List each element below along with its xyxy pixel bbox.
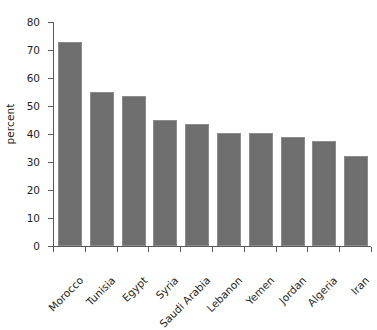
y-axis-title: percent	[0, 0, 20, 247]
x-tick	[148, 247, 149, 252]
y-tick-label: 60	[27, 72, 40, 84]
x-tick-label: Iran	[349, 274, 372, 297]
x-tick	[276, 247, 277, 252]
y-tick-label: 70	[27, 44, 40, 56]
x-tick-label: Jordan	[276, 274, 308, 306]
x-tick	[212, 247, 213, 252]
x-tick-label: Egypt	[119, 274, 149, 304]
x-tick-label: Tunisia	[83, 274, 117, 308]
y-tick-label: 20	[27, 184, 40, 196]
x-axis-labels: MoroccoTunisiaEgyptSyriaSaudi ArabiaLeba…	[53, 22, 371, 92]
x-tick	[371, 247, 372, 252]
x-tick	[307, 247, 308, 252]
y-tick-label: 50	[27, 100, 40, 112]
x-axis-label-host: MoroccoTunisiaEgyptSyriaSaudi ArabiaLeba…	[53, 22, 371, 247]
y-tick-label: 0	[33, 240, 40, 252]
x-tick	[117, 247, 118, 252]
x-tick-label: Syria	[154, 274, 181, 301]
x-tick-label: Algeria	[305, 274, 340, 309]
x-tick	[180, 247, 181, 252]
x-tick	[53, 247, 54, 252]
y-axis-title-label: percent	[4, 103, 16, 144]
x-tick-label: Morocco	[46, 274, 86, 314]
x-tick-label: Yemen	[243, 274, 276, 307]
y-tick-label: 40	[27, 128, 40, 140]
x-tick	[85, 247, 86, 252]
y-tick-label: 80	[27, 16, 40, 28]
x-tick	[339, 247, 340, 252]
x-tick	[244, 247, 245, 252]
y-tick-label: 30	[27, 156, 40, 168]
y-tick-label: 10	[27, 212, 40, 224]
